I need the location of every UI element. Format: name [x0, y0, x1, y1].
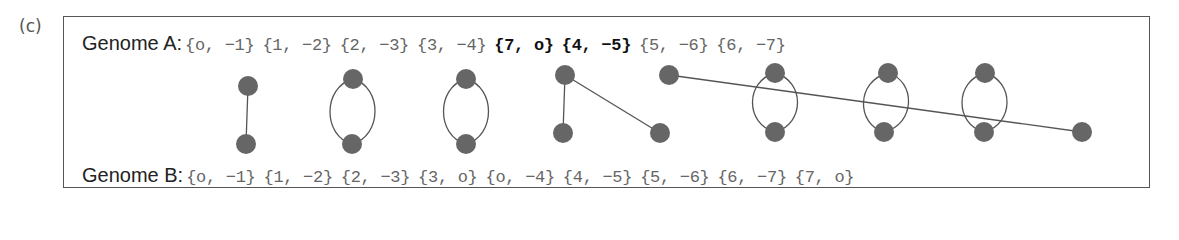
adjacency-pair: {o, −1}: [186, 168, 255, 187]
graph-node: [1072, 122, 1092, 142]
adjacency-pair: {o, −4}: [486, 168, 555, 187]
graph-node: [236, 134, 256, 154]
genome-b-adjacencies: {o, −1}{1, −2}{2, −3}{3, o}{o, −4}{4, −5…: [186, 168, 862, 187]
graph-node: [343, 69, 363, 89]
adjacency-edge: [330, 79, 353, 144]
adjacency-edge: [669, 75, 1082, 132]
adjacency-pair: {4, −5}: [563, 168, 632, 187]
graph-node: [456, 134, 476, 154]
adjacency-edge: [352, 79, 375, 144]
adjacency-pair: {6, −7}: [717, 168, 786, 187]
adjacency-pair: {2, −3}: [341, 168, 410, 187]
adjacency-pair: {1, −2}: [263, 168, 332, 187]
graph-node: [342, 134, 362, 154]
graph-node: [650, 123, 670, 143]
genome-b-row: Genome B: {o, −1}{1, −2}{2, −3}{3, o}{o,…: [82, 164, 862, 187]
graph-node: [874, 122, 894, 142]
adjacency-edge: [565, 75, 660, 133]
adjacency-pair: {7, o}: [795, 168, 854, 187]
graph-node: [765, 122, 785, 142]
graph-node: [659, 65, 679, 85]
graph-node: [878, 63, 898, 83]
graph-node: [975, 63, 995, 83]
graph-node: [974, 122, 994, 142]
graph-node: [456, 69, 476, 89]
graph-node: [553, 123, 573, 143]
adjacency-pair: {5, −6}: [640, 168, 709, 187]
graph-node: [765, 63, 785, 83]
graph-node: [555, 65, 575, 85]
genome-b-label: Genome B:: [82, 164, 183, 187]
adjacency-edge: [466, 79, 489, 144]
graph-node: [238, 76, 258, 96]
adjacency-edge: [444, 79, 467, 144]
adjacency-pair: {3, o}: [418, 168, 477, 187]
